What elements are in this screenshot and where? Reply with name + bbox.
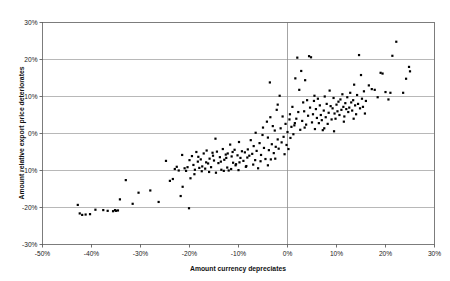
data-point bbox=[253, 145, 255, 147]
data-point bbox=[214, 138, 216, 140]
data-point bbox=[294, 122, 296, 124]
data-point bbox=[296, 57, 298, 59]
data-point bbox=[220, 161, 222, 163]
data-point bbox=[262, 126, 264, 128]
data-point bbox=[266, 121, 268, 123]
data-point bbox=[346, 96, 348, 98]
data-point bbox=[191, 155, 193, 157]
data-point bbox=[323, 127, 325, 129]
data-point bbox=[201, 170, 203, 172]
x-tick-label: -30% bbox=[133, 250, 149, 257]
data-point bbox=[402, 92, 404, 94]
data-point bbox=[302, 101, 304, 103]
data-point bbox=[225, 157, 227, 159]
data-point bbox=[284, 123, 286, 125]
data-point bbox=[337, 101, 339, 103]
data-point bbox=[277, 104, 279, 106]
data-point bbox=[85, 213, 87, 215]
data-point bbox=[215, 172, 217, 174]
data-point bbox=[303, 110, 305, 112]
data-point bbox=[307, 115, 309, 117]
data-point bbox=[165, 160, 167, 162]
data-point bbox=[283, 153, 285, 155]
data-point bbox=[282, 136, 284, 138]
data-point bbox=[236, 154, 238, 156]
data-point bbox=[234, 164, 236, 166]
data-point bbox=[232, 151, 234, 153]
data-point bbox=[258, 142, 260, 144]
data-point bbox=[361, 98, 363, 100]
data-point bbox=[342, 106, 344, 108]
data-point bbox=[289, 113, 291, 115]
data-point bbox=[206, 149, 208, 151]
data-point bbox=[222, 148, 224, 150]
data-point bbox=[356, 94, 358, 96]
data-point bbox=[77, 204, 79, 206]
data-point bbox=[326, 103, 328, 105]
data-point bbox=[259, 160, 261, 162]
data-point bbox=[181, 154, 183, 156]
data-point bbox=[188, 207, 190, 209]
data-point bbox=[261, 134, 263, 136]
data-point bbox=[176, 166, 178, 168]
data-point bbox=[325, 116, 327, 118]
data-point bbox=[273, 152, 275, 154]
data-point bbox=[282, 115, 284, 117]
data-point bbox=[340, 109, 342, 111]
data-point bbox=[230, 168, 232, 170]
data-point bbox=[81, 214, 83, 216]
data-point bbox=[343, 121, 345, 123]
data-point bbox=[316, 117, 318, 119]
data-point bbox=[318, 122, 320, 124]
data-point bbox=[117, 209, 119, 211]
data-point bbox=[260, 154, 262, 156]
data-point bbox=[169, 180, 171, 182]
data-point bbox=[198, 167, 200, 169]
data-point bbox=[268, 149, 270, 151]
data-point bbox=[277, 138, 279, 140]
data-point bbox=[319, 104, 321, 106]
data-point bbox=[332, 97, 334, 99]
data-point bbox=[220, 169, 222, 171]
data-point bbox=[305, 124, 307, 126]
data-point bbox=[345, 108, 347, 110]
data-point bbox=[285, 144, 287, 146]
data-point bbox=[229, 144, 231, 146]
data-point bbox=[275, 146, 277, 148]
data-point bbox=[238, 141, 240, 143]
y-axis-title: Amount relative export price deteriorate… bbox=[18, 66, 26, 199]
data-point bbox=[380, 72, 382, 74]
data-point bbox=[232, 162, 234, 164]
data-point bbox=[308, 55, 310, 57]
x-tick-label: 10% bbox=[330, 250, 343, 257]
data-point bbox=[368, 84, 370, 86]
data-point bbox=[274, 158, 276, 160]
data-point bbox=[391, 55, 393, 57]
data-point bbox=[255, 132, 257, 134]
data-point bbox=[195, 151, 197, 153]
data-point bbox=[298, 89, 300, 91]
data-point bbox=[271, 143, 273, 145]
data-point bbox=[333, 130, 335, 132]
data-point bbox=[238, 161, 240, 163]
data-point bbox=[389, 92, 391, 94]
data-point bbox=[328, 112, 330, 114]
data-point bbox=[174, 168, 176, 170]
data-point bbox=[333, 112, 335, 114]
data-point bbox=[334, 118, 336, 120]
data-point bbox=[149, 189, 151, 191]
data-point bbox=[267, 164, 269, 166]
data-point bbox=[205, 161, 207, 163]
data-point bbox=[387, 98, 389, 100]
x-axis-title: Amount currency depreciates bbox=[190, 265, 286, 273]
data-point bbox=[357, 103, 359, 105]
data-point bbox=[189, 177, 191, 179]
data-point bbox=[194, 169, 196, 171]
data-point bbox=[192, 164, 194, 166]
data-point bbox=[208, 158, 210, 160]
data-point bbox=[184, 167, 186, 169]
data-point bbox=[244, 151, 246, 153]
y-tick-label: 20% bbox=[24, 56, 37, 63]
data-point bbox=[355, 113, 357, 115]
data-point bbox=[267, 136, 269, 138]
